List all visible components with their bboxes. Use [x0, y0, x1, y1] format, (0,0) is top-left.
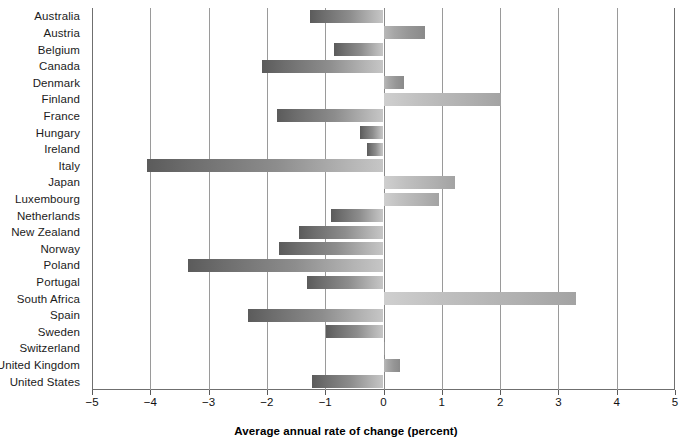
- bar: [384, 292, 576, 305]
- x-tick-mark: [442, 390, 443, 395]
- category-label: Ireland: [44, 141, 80, 157]
- x-tick-label: 2: [497, 396, 503, 408]
- category-label: Sweden: [38, 324, 80, 340]
- category-label: Belgium: [38, 42, 80, 58]
- category-label: Spain: [50, 307, 80, 323]
- bar: [334, 43, 384, 56]
- x-tick-label: −2: [260, 396, 273, 408]
- category-label: United States: [10, 374, 80, 390]
- bar: [326, 325, 383, 338]
- bar: [312, 375, 383, 388]
- x-axis-title: Average annual rate of change (percent): [0, 425, 692, 437]
- category-label: Denmark: [33, 75, 80, 91]
- category-label: Canada: [39, 58, 80, 74]
- category-label: Switzerland: [19, 340, 80, 356]
- category-label: United Kingdom: [0, 357, 80, 373]
- category-label: South Africa: [17, 291, 80, 307]
- bar: [384, 342, 386, 355]
- x-tick-mark: [617, 390, 618, 395]
- category-axis-labels: AustraliaAustriaBelgiumCanadaDenmarkFinl…: [0, 8, 86, 390]
- category-label: France: [44, 108, 80, 124]
- bar-chart: AustraliaAustriaBelgiumCanadaDenmarkFinl…: [0, 0, 692, 444]
- bar: [367, 143, 383, 156]
- bars-layer: [92, 8, 675, 390]
- x-tick-mark: [675, 390, 676, 395]
- category-label: Finland: [42, 91, 80, 107]
- x-tick-label: 1: [439, 396, 445, 408]
- category-label: Norway: [40, 241, 80, 257]
- bar: [310, 10, 383, 23]
- category-label: Austria: [44, 25, 81, 41]
- bar: [384, 193, 439, 206]
- category-label: Netherlands: [17, 208, 80, 224]
- category-label: Australia: [34, 8, 80, 24]
- x-tick-mark: [558, 390, 559, 395]
- plot-area: [92, 8, 675, 390]
- bar: [384, 76, 404, 89]
- x-tick-label: 4: [613, 396, 619, 408]
- x-tick-mark: [500, 390, 501, 395]
- bar: [384, 93, 502, 106]
- bar: [279, 242, 383, 255]
- bar: [188, 259, 383, 272]
- x-tick-mark: [267, 390, 268, 395]
- category-label: New Zealand: [11, 224, 80, 240]
- category-label: Hungary: [36, 125, 80, 141]
- bar: [277, 109, 384, 122]
- category-label: Italy: [58, 158, 80, 174]
- bar: [307, 276, 383, 289]
- bar: [262, 60, 383, 73]
- category-label: Portugal: [36, 274, 80, 290]
- x-tick-label: −4: [144, 396, 157, 408]
- x-tick-label: 0: [380, 396, 386, 408]
- category-label: Poland: [44, 257, 80, 273]
- bar: [384, 359, 400, 372]
- bar: [384, 176, 455, 189]
- x-axis: −5−4−3−2−1012345: [92, 390, 675, 420]
- bar: [384, 26, 426, 39]
- x-tick-label: 5: [672, 396, 678, 408]
- category-label: Japan: [48, 174, 80, 190]
- x-tick-mark: [150, 390, 151, 395]
- bar: [331, 209, 383, 222]
- x-tick-mark: [209, 390, 210, 395]
- bar: [360, 126, 383, 139]
- bar: [299, 226, 384, 239]
- x-tick-label: 3: [555, 396, 561, 408]
- bar: [248, 309, 383, 322]
- x-tick-mark: [384, 390, 385, 395]
- x-tick-label: −1: [319, 396, 332, 408]
- x-tick-label: −3: [202, 396, 215, 408]
- x-tick-mark: [325, 390, 326, 395]
- x-tick-label: −5: [85, 396, 98, 408]
- bar: [147, 159, 384, 172]
- category-label: Luxembourg: [15, 191, 80, 207]
- x-tick-mark: [92, 390, 93, 395]
